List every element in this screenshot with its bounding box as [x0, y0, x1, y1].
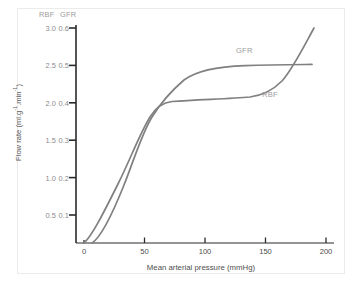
y-tick-label-gfr-0-2: 0.2: [56, 174, 69, 183]
y-axis-title: Flow rate (ml.g-1.min-1): [14, 68, 23, 178]
y-tick-label-rbf-2-0: 2.0: [32, 99, 56, 108]
figure-container: RBF GFR 3.0 2.5 2.0 1.5 1.0 0.5 0.6 0.5 …: [0, 0, 362, 290]
y-axis-header-rbf: RBF: [39, 10, 54, 19]
y-tick-label-rbf-2-5: 2.5: [32, 61, 56, 70]
x-tick-label-200: 200: [313, 247, 339, 256]
y-tick-label-rbf-1-5: 1.5: [32, 136, 56, 145]
y-tick-label-gfr-0-1: 0.1: [56, 211, 69, 220]
x-tick-label-0: 0: [71, 247, 97, 256]
x-tick-label-50: 50: [132, 247, 158, 256]
y-tick-label-gfr-0-5: 0.5: [56, 61, 69, 70]
x-tick-label-100: 100: [192, 247, 218, 256]
series-annotation-rbf: RBF: [262, 90, 278, 99]
x-axis-title: Mean arterial pressure (mmHg): [76, 263, 326, 272]
x-tick-marks: [84, 238, 326, 244]
y-tick-label-gfr-0-6: 0.6: [56, 24, 69, 33]
y-tick-label-rbf-1-0: 1.0: [32, 174, 56, 183]
x-tick-label-150: 150: [253, 247, 279, 256]
series-annotation-gfr: GFR: [236, 46, 253, 55]
y-tick-marks: [69, 28, 76, 215]
series-curve-gfr: [92, 64, 312, 243]
y-axis-header-gfr: GFR: [60, 10, 76, 19]
series-curve-rbf: [84, 28, 314, 243]
y-tick-label-gfr-0-4: 0.4: [56, 99, 69, 108]
y-tick-label-rbf-3-0: 3.0: [32, 24, 56, 33]
y-tick-label-rbf-0-5: 0.5: [32, 211, 56, 220]
y-tick-label-gfr-0-3: 0.3: [56, 136, 69, 145]
